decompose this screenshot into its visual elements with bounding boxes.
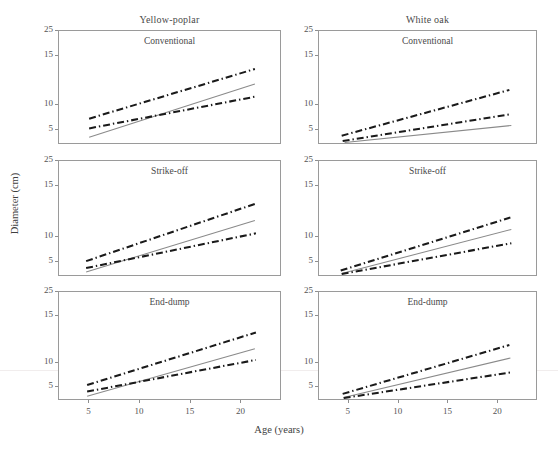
panel-yellow-poplar-end-dump: End-dump [58, 291, 281, 400]
y-tick-label: 25 [291, 24, 313, 34]
plot-area [59, 31, 280, 143]
figure-canvas: Yellow-poplar White oak Diameter (cm) Ag… [0, 0, 558, 449]
y-tick-mark [315, 386, 318, 387]
x-tick-mark [497, 400, 498, 403]
y-tick-mark [55, 386, 58, 387]
y-tick-label: 5 [291, 255, 313, 265]
x-tick-mark [139, 400, 140, 403]
panel-white-oak-end-dump: End-dump [318, 291, 537, 400]
y-tick-label: 15 [291, 49, 313, 59]
x-tick-label: 5 [77, 406, 99, 416]
x-tick-mark [348, 400, 349, 403]
x-tick-label: 10 [128, 406, 150, 416]
y-tick-label: 5 [291, 380, 313, 390]
panel-yellow-poplar-conventional: Conventional [58, 30, 281, 144]
x-tick-label: 15 [436, 406, 458, 416]
plot-area [59, 161, 280, 275]
y-tick-label: 15 [291, 179, 313, 189]
y-tick-mark [55, 160, 58, 161]
y-tick-mark [55, 236, 58, 237]
panel-white-oak-conventional: Conventional [318, 30, 537, 144]
y-tick-mark [55, 261, 58, 262]
y-axis-label: Diameter (cm) [9, 159, 20, 249]
panel-white-oak-strike-off: Strike-off [318, 160, 537, 276]
y-tick-mark [315, 261, 318, 262]
series-line-fitted [344, 358, 511, 398]
column-title-yellow-poplar: Yellow-poplar [58, 14, 281, 25]
y-tick-mark [55, 291, 58, 292]
y-tick-mark [315, 362, 318, 363]
x-tick-mark [398, 400, 399, 403]
y-tick-mark [315, 55, 318, 56]
x-tick-label: 10 [387, 406, 409, 416]
series-line-lower-bound [89, 97, 255, 129]
series-line-upper-bound [342, 90, 510, 136]
y-tick-label: 10 [31, 356, 53, 366]
series-line-lower-bound [87, 360, 256, 392]
y-tick-mark [55, 104, 58, 105]
x-tick-label: 20 [229, 406, 251, 416]
y-tick-label: 10 [291, 356, 313, 366]
x-tick-label: 5 [337, 406, 359, 416]
x-tick-mark [240, 400, 241, 403]
y-tick-label: 15 [31, 309, 53, 319]
y-tick-mark [315, 185, 318, 186]
y-tick-mark [55, 315, 58, 316]
y-tick-label: 10 [31, 98, 53, 108]
y-tick-label: 25 [31, 285, 53, 295]
y-tick-label: 25 [291, 285, 313, 295]
y-tick-mark [315, 30, 318, 31]
y-tick-label: 10 [31, 230, 53, 240]
x-tick-label: 20 [486, 406, 508, 416]
series-line-fitted [342, 229, 512, 273]
y-tick-label: 25 [31, 154, 53, 164]
x-tick-mark [447, 400, 448, 403]
y-tick-mark [55, 55, 58, 56]
y-tick-mark [55, 185, 58, 186]
y-tick-label: 5 [31, 380, 53, 390]
panel-yellow-poplar-strike-off: Strike-off [58, 160, 281, 276]
series-line-upper-bound [343, 345, 510, 394]
plot-area [319, 161, 536, 275]
series-line-upper-bound [89, 69, 255, 119]
y-tick-mark [315, 291, 318, 292]
x-tick-label: 15 [179, 406, 201, 416]
series-line-upper-bound [86, 204, 256, 262]
series-line-upper-bound [87, 332, 256, 385]
y-tick-label: 5 [291, 123, 313, 133]
y-tick-label: 10 [291, 98, 313, 108]
y-tick-mark [315, 104, 318, 105]
y-tick-mark [315, 315, 318, 316]
y-tick-label: 5 [31, 123, 53, 133]
y-tick-label: 25 [31, 24, 53, 34]
series-line-fitted [89, 84, 255, 137]
plot-area [319, 31, 536, 143]
series-line-fitted [86, 220, 255, 272]
column-title-white-oak: White oak [318, 14, 537, 25]
series-line-lower-bound [344, 372, 511, 398]
y-tick-mark [315, 129, 318, 130]
series-line-lower-bound [86, 233, 256, 268]
plot-area [59, 292, 280, 399]
y-tick-label: 15 [291, 309, 313, 319]
y-tick-mark [55, 129, 58, 130]
series-line-lower-bound [342, 243, 512, 274]
series-line-fitted [87, 349, 255, 396]
y-tick-mark [315, 236, 318, 237]
y-tick-mark [55, 362, 58, 363]
y-tick-label: 10 [291, 230, 313, 240]
x-axis-label: Age (years) [0, 424, 558, 435]
plot-area [319, 292, 536, 399]
y-tick-mark [55, 30, 58, 31]
series-line-upper-bound [341, 218, 511, 271]
y-tick-mark [315, 160, 318, 161]
y-tick-label: 15 [31, 49, 53, 59]
x-tick-mark [190, 400, 191, 403]
x-tick-mark [88, 400, 89, 403]
y-tick-label: 25 [291, 154, 313, 164]
y-tick-label: 5 [31, 255, 53, 265]
y-tick-label: 15 [31, 179, 53, 189]
